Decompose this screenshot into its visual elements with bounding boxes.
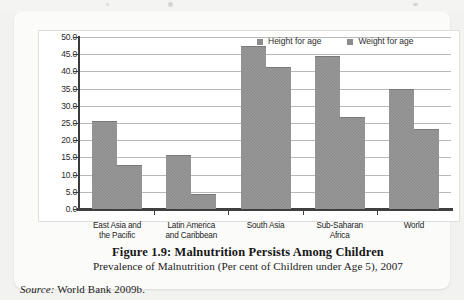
y-axis-tick-label: 10.0 <box>41 171 77 179</box>
legend-swatch-icon <box>347 39 353 45</box>
y-axis-tick <box>73 157 79 158</box>
y-axis-tick-label: 30.0 <box>41 102 77 110</box>
y-axis-tick <box>73 71 79 72</box>
gridline <box>80 54 451 55</box>
y-axis-tick <box>73 89 79 90</box>
x-axis-label-line: Sub-Saharan <box>303 221 377 231</box>
y-axis-tick <box>73 209 79 210</box>
y-axis-tick <box>73 175 79 176</box>
figure-caption: Figure 1.9: Malnutrition Persists Among … <box>38 245 458 273</box>
scan-speck <box>168 2 173 7</box>
scan-speck <box>413 3 418 6</box>
x-axis-label-line: and Caribbean <box>154 231 228 241</box>
source-label: Source: <box>20 283 55 295</box>
x-axis-tick <box>303 210 304 215</box>
bar-1-2 <box>266 67 291 209</box>
figure-page-card: 50.045.040.035.030.025.020.015.010.05.00… <box>14 11 450 289</box>
chart-legend: Height for ageWeight for age <box>257 37 414 46</box>
plot-area <box>80 37 451 209</box>
x-axis-label-3: Sub-SaharanAfrica <box>303 221 377 240</box>
figure-subtitle: Prevalence of Malnutrition (Per cent of … <box>38 260 458 273</box>
x-axis-label-2: South Asia <box>228 221 302 231</box>
y-axis-tick-labels: 50.045.040.035.030.025.020.015.010.05.00… <box>41 37 77 209</box>
y-axis-tick <box>73 37 79 38</box>
bar-1-4 <box>414 129 439 209</box>
x-axis-label-line: East Asia and <box>80 221 154 231</box>
y-axis-tick <box>73 106 79 107</box>
chart-panel: 50.045.040.035.030.025.020.015.010.05.00… <box>38 30 460 222</box>
x-axis-tick <box>377 210 378 215</box>
legend-label: Height for age <box>268 37 321 46</box>
source-line: Source: World Bank 2009b. <box>20 283 145 295</box>
y-axis-tick-label: 40.0 <box>41 67 77 75</box>
source-text: World Bank 2009b. <box>57 283 145 295</box>
bar-0-0 <box>92 121 117 209</box>
x-axis-label-line: Latin America <box>154 221 228 231</box>
legend-swatch-icon <box>257 39 263 45</box>
bar-0-4 <box>389 89 414 209</box>
bar-1-3 <box>340 117 365 209</box>
x-axis-label-line: Africa <box>303 231 377 241</box>
y-axis-tick-label: 25.0 <box>41 119 77 127</box>
bar-1-0 <box>117 165 142 209</box>
legend-label: Weight for age <box>358 37 413 46</box>
x-axis-label-4: World <box>377 221 451 231</box>
x-axis-label-0: East Asia andthe Pacific <box>80 221 154 240</box>
y-axis-tick <box>73 123 79 124</box>
bar-0-1 <box>166 155 191 209</box>
bar-0-3 <box>315 56 340 209</box>
y-axis-tick <box>73 192 79 193</box>
x-axis-label-line: the Pacific <box>80 231 154 241</box>
y-axis-tick-label: 35.0 <box>41 85 77 93</box>
scan-speck <box>106 3 109 6</box>
x-axis-tick <box>228 210 229 215</box>
y-axis-tick-label: 0.0 <box>41 205 77 213</box>
y-axis-tick-label: 20.0 <box>41 136 77 144</box>
bar-0-2 <box>241 46 266 209</box>
legend-item-0[interactable]: Height for age <box>257 37 321 46</box>
y-axis-tick-label: 5.0 <box>41 188 77 196</box>
y-axis-tick <box>73 140 79 141</box>
x-axis-tick <box>154 210 155 215</box>
x-axis-label-line: World <box>377 221 451 231</box>
x-axis-category-labels: East Asia andthe PacificLatin Americaand… <box>38 221 458 243</box>
legend-item-1[interactable]: Weight for age <box>347 37 413 46</box>
x-axis-label-1: Latin Americaand Caribbean <box>154 221 228 240</box>
y-axis-tick-label: 15.0 <box>41 153 77 161</box>
bar-1-1 <box>191 194 216 209</box>
y-axis-tick-label: 50.0 <box>41 33 77 41</box>
x-axis-label-line: South Asia <box>228 221 302 231</box>
y-axis-tick <box>73 54 79 55</box>
plot-wrapper: 50.045.040.035.030.025.020.015.010.05.00… <box>39 31 459 221</box>
figure-title: Figure 1.9: Malnutrition Persists Among … <box>38 245 458 259</box>
y-axis-tick-label: 45.0 <box>41 50 77 58</box>
